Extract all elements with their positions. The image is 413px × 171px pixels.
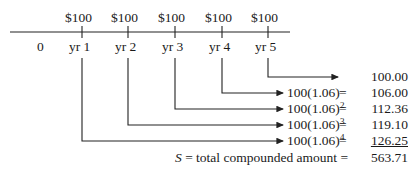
equals-sign: = [339, 86, 347, 100]
connector-yr4 [222, 58, 283, 93]
value-yr4: 106.00 [348, 86, 408, 100]
value-yr5: 100.00 [348, 70, 408, 84]
value-yr1: 126.25 [371, 133, 408, 148]
total-label: = total compounded amount = [185, 150, 348, 165]
year-label-yr5: yr 5 [255, 40, 276, 54]
equals-sign: = [339, 102, 347, 116]
total-symbol: S [175, 150, 182, 165]
equals-sign: = [339, 134, 347, 148]
expression-base: 100(1.06) [287, 117, 340, 132]
connector-yr1 [82, 58, 283, 141]
connector-yr5 [268, 58, 338, 77]
value-yr1-wrap: 126.25 [348, 134, 408, 148]
connector-yr3 [175, 58, 283, 109]
total-line: S = total compounded amount = [175, 151, 348, 165]
year-label-yr1: yr 1 [69, 40, 90, 54]
value-yr2: 119.10 [348, 118, 408, 132]
expression-yr2: 100(1.06)3 [287, 118, 344, 132]
connector-yr2 [128, 58, 283, 125]
expression-yr4: 100(1.06) [287, 86, 340, 100]
expression-yr3: 100(1.06)2 [287, 102, 344, 116]
year-label-yr4: yr 4 [209, 40, 230, 54]
equals-sign: = [339, 118, 347, 132]
year-label-yr3: yr 3 [162, 40, 183, 54]
expression-base: 100(1.06) [287, 133, 340, 148]
payment-label-yr4: $100 [205, 11, 232, 25]
expression-yr1: 100(1.06)4 [287, 134, 344, 148]
year-label-0: 0 [37, 40, 44, 54]
year-label-yr2: yr 2 [115, 40, 136, 54]
payment-label-yr5: $100 [251, 11, 278, 25]
total-value: 563.71 [348, 151, 408, 165]
expression-base: 100(1.06) [287, 85, 340, 100]
payment-label-yr3: $100 [158, 11, 185, 25]
payment-label-yr1: $100 [65, 11, 92, 25]
value-yr3: 112.36 [348, 102, 408, 116]
payment-label-yr2: $100 [111, 11, 138, 25]
expression-base: 100(1.06) [287, 101, 340, 116]
